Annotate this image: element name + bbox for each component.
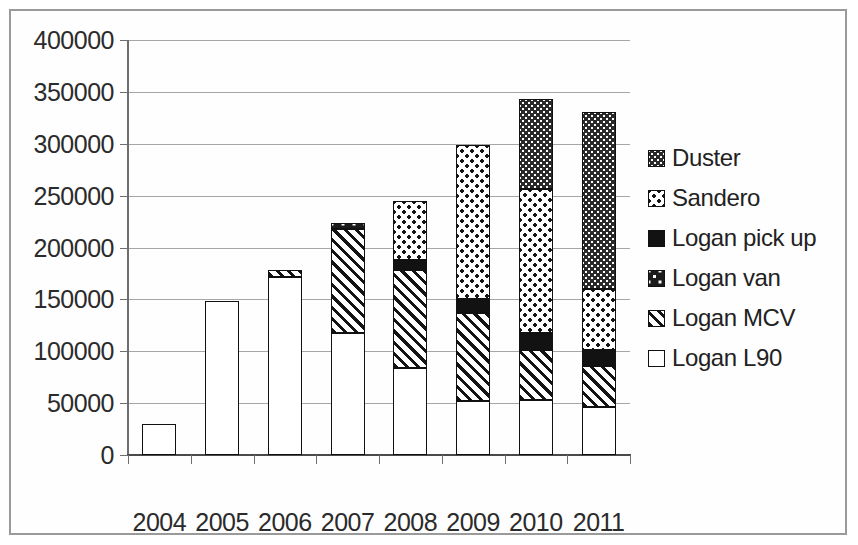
legend-swatch-icon — [648, 350, 665, 367]
y-axis-labels: 0500001000001500002000002500003000003500… — [0, 0, 128, 545]
stacked-bar-chart: 0500001000001500002000002500003000003500… — [0, 0, 858, 545]
legend-swatch-icon — [648, 150, 665, 167]
bar-segment-2011-logan-pick-up — [582, 350, 616, 366]
bar-segment-2009-logan-pick-up — [456, 299, 490, 312]
x-axis-tick-mark — [567, 455, 568, 464]
bar-2005 — [205, 40, 239, 455]
bar-segment-2008-sandero — [393, 201, 427, 260]
legend-swatch-icon — [648, 310, 665, 327]
bar-segment-2011-logan-mcv — [582, 366, 616, 408]
y-axis-tick-label: 150000 — [34, 285, 114, 314]
bar-2010 — [519, 40, 553, 455]
y-axis-tick-mark — [120, 248, 129, 249]
bar-segment-2010-logan-pick-up — [519, 333, 553, 351]
gridline — [128, 351, 630, 352]
legend-swatch-icon — [648, 270, 665, 287]
bar-segment-2007-logan-mcv — [331, 229, 365, 333]
gridline — [128, 248, 630, 249]
bar-2007 — [331, 40, 365, 455]
legend-item-label: Logan MCV — [672, 304, 795, 332]
bar-2008 — [393, 40, 427, 455]
bar-segment-2010-logan-mcv — [519, 350, 553, 400]
legend-item-label: Duster — [672, 144, 740, 172]
gridline — [128, 144, 630, 145]
bar-segment-2006-logan-l90 — [268, 277, 302, 455]
bar-2009 — [456, 40, 490, 455]
legend-item-label: Logan van — [672, 264, 781, 292]
gridline — [128, 299, 630, 300]
x-axis-tick-label: 2009 — [446, 508, 500, 537]
y-axis-tick-label: 50000 — [47, 389, 114, 418]
x-axis-tick-label: 2010 — [509, 508, 563, 537]
legend-item-sandero[interactable]: Sandero — [648, 178, 848, 218]
legend-item-label: Logan pick up — [672, 224, 816, 252]
x-axis-tick-label: 2011 — [573, 508, 625, 537]
bar-segment-2008-logan-pick-up — [393, 260, 427, 270]
gridline — [128, 196, 630, 197]
bar-segment-2007-logan-van — [331, 223, 365, 229]
y-axis-tick-label: 350000 — [34, 77, 114, 106]
legend-swatch-icon — [648, 230, 665, 247]
x-axis-tick-mark — [191, 455, 192, 464]
gridline — [128, 40, 630, 41]
gridline — [128, 92, 630, 93]
y-axis-tick-label: 100000 — [34, 337, 114, 366]
bar-segment-2010-sandero — [519, 189, 553, 332]
bar-segment-2010-duster — [519, 99, 553, 189]
plot-area: 20042005200620072008200920102011 — [128, 40, 630, 455]
x-axis-tick-label: 2004 — [133, 508, 187, 537]
x-axis-tick-mark — [379, 455, 380, 464]
y-axis-tick-label: 250000 — [34, 181, 114, 210]
bar-2006 — [268, 40, 302, 455]
bar-segment-2008-logan-mcv — [393, 270, 427, 368]
bar-segment-2011-sandero — [582, 289, 616, 350]
legend-item-logan-van[interactable]: Logan van — [648, 258, 848, 298]
bar-segment-2010-logan-l90 — [519, 400, 553, 455]
x-axis-tick-mark — [254, 455, 255, 464]
y-axis-tick-mark — [120, 299, 129, 300]
y-axis-tick-mark — [120, 196, 129, 197]
y-axis-tick-mark — [120, 40, 129, 41]
x-axis-tick-mark — [128, 455, 129, 464]
legend-item-label: Logan L90 — [672, 344, 782, 372]
x-axis-tick-mark — [505, 455, 506, 464]
y-axis-tick-mark — [120, 92, 129, 93]
bar-segment-2009-logan-mcv — [456, 313, 490, 401]
x-axis-tick-mark — [316, 455, 317, 464]
bar-segment-2009-sandero — [456, 145, 490, 300]
x-axis-tick-label: 2005 — [195, 508, 249, 537]
bar-segment-2004-logan-l90 — [142, 424, 176, 455]
bar-segment-2006-logan-mcv — [268, 270, 302, 276]
y-axis-tick-label: 200000 — [34, 233, 114, 262]
y-axis-tick-label: 400000 — [34, 26, 114, 55]
x-axis-tick-mark — [442, 455, 443, 464]
y-axis-tick-label: 0 — [101, 441, 114, 470]
bar-segment-2007-logan-l90 — [331, 333, 365, 455]
y-axis-tick-mark — [120, 403, 129, 404]
legend-item-logan-mcv[interactable]: Logan MCV — [648, 298, 848, 338]
gridline — [128, 403, 630, 404]
bar-2011 — [582, 40, 616, 455]
legend-item-duster[interactable]: Duster — [648, 138, 848, 178]
bar-segment-2009-logan-l90 — [456, 401, 490, 455]
x-axis-tick-mark — [630, 455, 631, 464]
x-axis-tick-label: 2007 — [321, 508, 375, 537]
bar-segment-2008-logan-l90 — [393, 368, 427, 455]
chart-legend: DusterSanderoLogan pick upLogan vanLogan… — [648, 138, 848, 378]
x-axis-tick-label: 2008 — [384, 508, 438, 537]
legend-item-logan-pick-up[interactable]: Logan pick up — [648, 218, 848, 258]
x-axis-tick-label: 2006 — [258, 508, 312, 537]
bar-2004 — [142, 40, 176, 455]
bar-segment-2005-logan-l90 — [205, 301, 239, 455]
y-axis-tick-mark — [120, 144, 129, 145]
bar-segment-2011-duster — [582, 112, 616, 289]
bar-segment-2011-logan-l90 — [582, 407, 616, 455]
legend-swatch-icon — [648, 190, 665, 207]
legend-item-label: Sandero — [672, 184, 760, 212]
y-axis-tick-label: 300000 — [34, 129, 114, 158]
legend-item-logan-l90[interactable]: Logan L90 — [648, 338, 848, 378]
y-axis-tick-mark — [120, 351, 129, 352]
